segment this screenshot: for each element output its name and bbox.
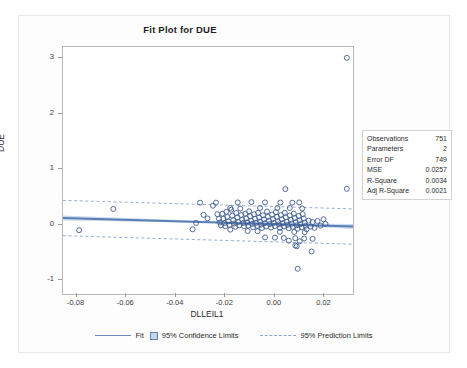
x-axis-label: DLLEIL1 (62, 309, 352, 319)
x-tick-mark (274, 293, 275, 297)
fit-line-icon (95, 335, 131, 336)
y-tick-mark (58, 224, 62, 225)
x-tick-mark (76, 293, 77, 297)
x-tick-mark (125, 293, 126, 297)
stat-label: Parameters (367, 144, 407, 154)
y-tick-label: 2 (28, 108, 54, 117)
x-tick-label: -0.06 (105, 298, 145, 307)
stat-value: 2 (443, 144, 447, 154)
x-tick-mark (224, 293, 225, 297)
stat-value: 0.0257 (426, 165, 447, 175)
legend-item-prediction: 95% Prediction Limits (260, 331, 372, 340)
x-tick-label: 0.02 (303, 298, 343, 307)
stat-value: 751 (435, 134, 447, 144)
x-tick-label: -0.04 (155, 298, 195, 307)
y-tick-mark (58, 279, 62, 280)
stat-row: MSE0.0257 (367, 165, 447, 175)
legend-label-prediction: 95% Prediction Limits (300, 331, 372, 340)
legend-label-fit: Fit (135, 331, 143, 340)
y-tick-label: 3 (28, 52, 54, 61)
y-tick-label: 0 (28, 219, 54, 228)
chart-legend: Fit 95% Confidence Limits 95% Prediction… (24, 331, 444, 340)
confidence-band-icon (150, 332, 158, 340)
x-tick-mark (323, 293, 324, 297)
x-tick-label: 0.00 (254, 298, 294, 307)
y-axis-label: DUE (0, 134, 6, 152)
stat-label: Observations (367, 134, 412, 144)
stat-value: 749 (435, 155, 447, 165)
legend-item-fit: Fit (95, 331, 143, 340)
y-tick-mark (58, 113, 62, 114)
stat-row: Adj R-Square0.0021 (367, 186, 447, 196)
stat-label: MSE (367, 165, 386, 175)
stat-label: Error DF (367, 155, 398, 165)
stat-label: Adj R-Square (367, 186, 413, 196)
y-tick-mark (58, 168, 62, 169)
stat-value: 0.0034 (426, 176, 447, 186)
x-tick-label: -0.08 (56, 298, 96, 307)
stat-row: Observations751 (367, 134, 447, 144)
y-tick-mark (58, 57, 62, 58)
stat-value: 0.0021 (426, 186, 447, 196)
legend-item-confidence: 95% Confidence Limits (150, 331, 239, 340)
x-tick-mark (175, 293, 176, 297)
scatter-points (77, 55, 350, 271)
fit-plot-figure: Fit Plot for DUE DUE -10123 -0.08-0.06-0… (0, 0, 467, 368)
plot-area (62, 46, 354, 295)
stat-row: Parameters2 (367, 144, 447, 154)
x-tick-label: -0.02 (204, 298, 244, 307)
y-tick-label: -1 (28, 274, 54, 283)
plot-canvas (63, 47, 353, 294)
stat-row: Error DF749 (367, 155, 447, 165)
stat-label: R-Square (367, 176, 401, 186)
page-title: Fit Plot for DUE (0, 24, 360, 35)
fit-line (63, 218, 353, 227)
y-tick-label: 1 (28, 163, 54, 172)
statistics-box: Observations751Parameters2Error DF749MSE… (362, 130, 452, 200)
prediction-limits-icon (260, 335, 296, 336)
stat-row: R-Square0.0034 (367, 176, 447, 186)
legend-label-confidence: 95% Confidence Limits (162, 331, 239, 340)
